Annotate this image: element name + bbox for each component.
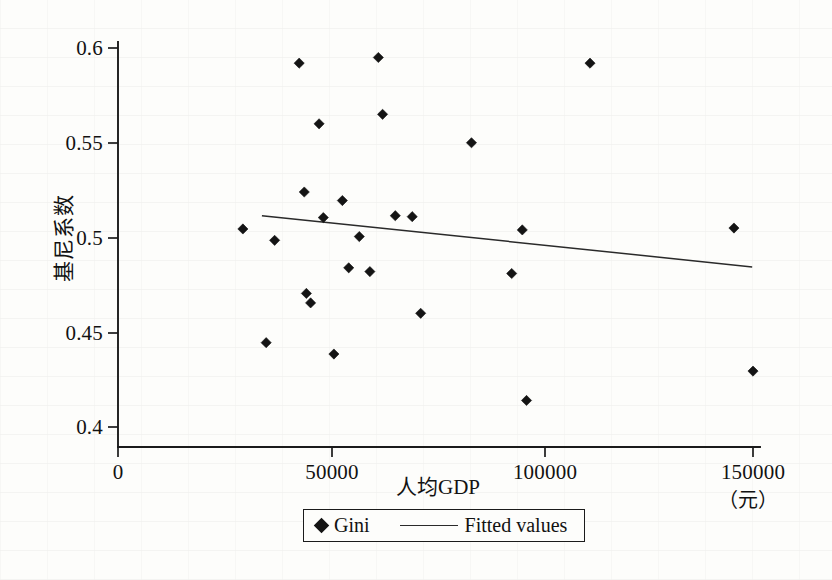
scatter-point-group	[238, 52, 758, 405]
scatter-point	[748, 366, 758, 376]
line-swatch-icon	[400, 525, 458, 526]
x-tick-label-100000: 100000	[513, 460, 577, 485]
scatter-point	[521, 395, 531, 405]
y-axis-ticks	[108, 48, 118, 427]
scatter-point	[365, 267, 375, 277]
x-axis-unit-label: （元）	[718, 484, 778, 513]
x-axis-title: 人均GDP	[396, 470, 480, 500]
legend-label-fitted-values: Fitted values	[465, 514, 568, 537]
scatter-point	[314, 119, 324, 129]
y-tick-label-0-5: 0.5	[76, 226, 103, 251]
legend-label-gini: Gini	[334, 514, 370, 537]
x-axis-ticks	[118, 447, 753, 457]
scatter-point	[407, 212, 417, 222]
legend-entry-gini[interactable]: Gini	[316, 514, 370, 537]
scatter-point	[416, 308, 426, 318]
fitted-values-line	[262, 216, 752, 267]
scatter-point	[261, 338, 271, 348]
scatter-point	[301, 288, 311, 298]
scatter-point	[270, 235, 280, 245]
scatter-point	[373, 52, 383, 62]
chart-legend: Gini Fitted values	[303, 509, 585, 542]
y-axis-title: 基尼系数	[47, 194, 77, 282]
scatter-point	[294, 58, 304, 68]
y-tick-label-0-45: 0.45	[65, 321, 103, 346]
x-tick-label-150000: 150000	[721, 460, 785, 485]
scatter-point	[390, 211, 400, 221]
scatter-point	[729, 223, 739, 233]
y-tick-label-0-6: 0.6	[76, 36, 103, 61]
y-tick-label-0-4: 0.4	[76, 415, 103, 440]
scatter-point	[354, 231, 364, 241]
x-tick-label-50000: 50000	[305, 460, 359, 485]
y-tick-label-0-55: 0.55	[65, 131, 103, 156]
scatter-point	[238, 224, 248, 234]
scatter-point	[585, 58, 595, 68]
scatter-plot-figure: 0.6 0.55 0.5 0.45 0.4 0 50000 100000 150…	[0, 0, 832, 580]
diamond-marker-icon	[314, 518, 330, 534]
x-tick-label-0: 0	[113, 460, 124, 485]
scatter-point	[344, 263, 354, 273]
scatter-point	[299, 187, 309, 197]
scatter-point	[337, 195, 347, 205]
scatter-point	[466, 138, 476, 148]
legend-entry-fitted-values[interactable]: Fitted values	[400, 514, 568, 537]
scatter-point	[306, 298, 316, 308]
scatter-point	[517, 225, 527, 235]
scatter-point	[377, 109, 387, 119]
scatter-point	[507, 268, 517, 278]
scatter-point	[329, 349, 339, 359]
